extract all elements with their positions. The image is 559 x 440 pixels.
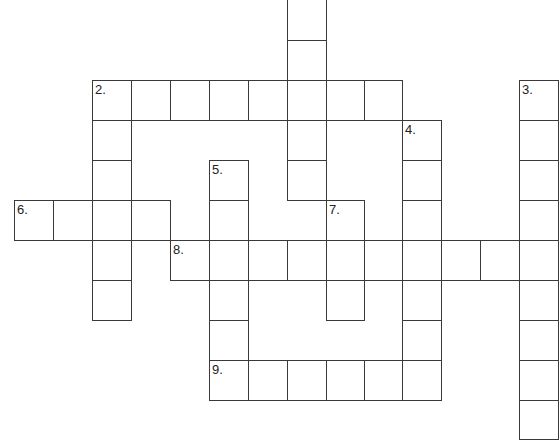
crossword-cell[interactable] [402, 160, 442, 201]
crossword-cell[interactable]: 2. [92, 80, 132, 121]
crossword-cell[interactable] [248, 80, 288, 121]
crossword-cell[interactable] [92, 240, 132, 281]
crossword-cell[interactable] [209, 240, 249, 281]
crossword-cell[interactable] [364, 240, 403, 281]
crossword-cell[interactable] [209, 200, 249, 241]
clue-number-6: 6. [17, 203, 28, 216]
crossword-cell[interactable] [519, 280, 559, 321]
crossword-cell[interactable] [248, 360, 288, 401]
crossword-cell[interactable] [519, 320, 559, 361]
crossword-cell[interactable] [248, 240, 288, 281]
crossword-cell[interactable] [402, 360, 442, 401]
crossword-cell[interactable] [287, 80, 327, 121]
crossword-cell[interactable] [402, 200, 442, 241]
crossword-cell[interactable] [92, 200, 132, 241]
crossword-cell[interactable] [480, 240, 520, 281]
crossword-cell[interactable] [402, 280, 442, 321]
crossword-cell[interactable] [92, 280, 132, 321]
crossword-cell[interactable] [326, 240, 365, 281]
clue-number-3: 3. [522, 83, 533, 96]
crossword-cell[interactable] [131, 80, 171, 121]
crossword-cell[interactable] [519, 120, 559, 161]
crossword-cell[interactable] [92, 160, 132, 201]
crossword-cell[interactable]: 8. [170, 240, 210, 281]
crossword-cell[interactable]: 6. [14, 200, 54, 241]
crossword-cell[interactable]: 7. [326, 200, 365, 241]
crossword-cell[interactable]: 9. [209, 360, 249, 401]
crossword-cell[interactable] [131, 200, 171, 241]
crossword-cell[interactable] [170, 80, 210, 121]
crossword-cell[interactable] [209, 280, 249, 321]
crossword-cell[interactable] [364, 360, 403, 401]
clue-number-7: 7. [329, 203, 340, 216]
crossword-cell[interactable] [287, 0, 327, 41]
crossword-cell[interactable] [326, 360, 365, 401]
crossword-cell[interactable] [287, 240, 327, 281]
crossword-cell[interactable] [519, 400, 559, 440]
crossword-cell[interactable] [326, 80, 365, 121]
crossword-cell[interactable]: 3. [519, 80, 559, 121]
clue-number-2: 2. [95, 83, 106, 96]
crossword-cell[interactable] [326, 280, 365, 321]
crossword-cell[interactable] [209, 320, 249, 361]
crossword-cell[interactable] [402, 240, 442, 281]
crossword-cell[interactable] [287, 360, 327, 401]
crossword-cell[interactable] [519, 200, 559, 241]
crossword-cell[interactable] [364, 80, 403, 121]
crossword-cell[interactable] [287, 120, 327, 161]
crossword-cell[interactable] [209, 80, 249, 121]
clue-number-4: 4. [405, 123, 416, 136]
crossword-cell[interactable] [519, 240, 559, 281]
clue-number-9: 9. [212, 363, 223, 376]
crossword-cell[interactable] [441, 240, 481, 281]
crossword-cell[interactable] [402, 320, 442, 361]
crossword-cell[interactable] [519, 360, 559, 401]
crossword-cell[interactable]: 5. [209, 160, 249, 201]
clue-number-5: 5. [212, 163, 223, 176]
crossword-cell[interactable] [92, 120, 132, 161]
crossword-cell[interactable]: 4. [402, 120, 442, 161]
crossword-cell[interactable] [519, 160, 559, 201]
crossword-cell[interactable] [53, 200, 93, 241]
crossword-cell[interactable] [287, 40, 327, 81]
clue-number-8: 8. [173, 243, 184, 256]
crossword-cell[interactable] [287, 160, 327, 201]
